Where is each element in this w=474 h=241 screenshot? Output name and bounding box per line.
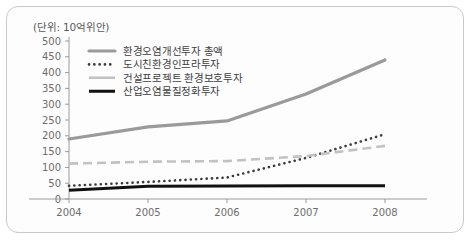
y-axis-tick-label: 250 — [42, 115, 61, 126]
x-axis-tick-label: 2007 — [293, 207, 318, 218]
y-axis-tick-label: 350 — [42, 83, 61, 94]
x-axis-tick-label: 2008 — [372, 207, 397, 218]
legend-label: 건설프로젝트 환경보호투자 — [123, 72, 243, 84]
line-chart: 050100150200250300350400450500 200420052… — [7, 7, 464, 233]
chart-legend: 환경오염개선투자 총액도시친환경인프라투자건설프로젝트 환경보호투자산업오염물질… — [89, 45, 243, 97]
legend-label: 산업오염물질정화투자 — [123, 85, 220, 97]
y-axis-tick-label: 450 — [42, 51, 61, 62]
y-axis: 050100150200250300350400450500 — [42, 36, 69, 205]
y-axis-tick-label: 200 — [42, 130, 61, 141]
legend-label: 도시친환경인프라투자 — [123, 58, 220, 70]
y-axis-tick-label: 150 — [42, 146, 61, 157]
x-axis-tick-label: 2005 — [135, 207, 160, 218]
legend-label: 환경오염개선투자 총액 — [123, 45, 223, 57]
y-axis-tick-label: 300 — [42, 99, 61, 110]
y-axis-tick-label: 400 — [42, 67, 61, 78]
chart-card: (단위: 10억위안) 0501001502002503003504004505… — [6, 6, 464, 233]
x-axis-tick-label: 2004 — [56, 207, 81, 218]
x-axis: 20042005200620072008 — [29, 199, 427, 218]
series-line — [69, 186, 385, 190]
y-axis-tick-label: 500 — [42, 36, 61, 47]
series-line — [69, 146, 385, 164]
y-axis-tick-label: 100 — [42, 162, 61, 173]
x-axis-tick-label: 2006 — [214, 207, 239, 218]
y-axis-tick-label: 50 — [48, 178, 61, 189]
